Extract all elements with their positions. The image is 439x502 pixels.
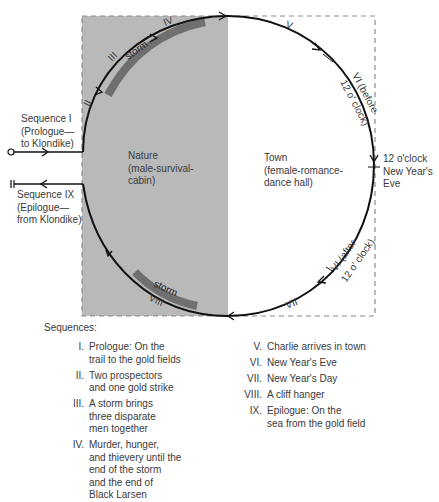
sequence-number: VIII. [224,389,267,402]
sequence-text: Prologue: On the trail to the gold field… [89,341,181,366]
sequence-number: VI. [224,357,267,370]
sequence-text: A cliff hanger [267,389,325,402]
sequence-item: III.A storm brings three disparate men t… [44,398,181,436]
entry-sequence-label: Sequence I (Prologue— to Klondike) [21,113,74,151]
sequence-number: VII. [224,373,267,386]
sequence-list-left: I.Prologue: On the trail to the gold fie… [44,341,181,502]
exit-sequence-label: Sequence IX (Epilogue— from Klondike) [17,189,81,227]
label-v: V [284,19,294,32]
sequence-text: New Year's Eve [267,357,337,370]
sequence-item: IX.Epilogue: On the sea from the gold fi… [224,405,366,430]
sequence-number: II. [44,370,89,395]
sequence-list-right: V.Charlie arrives in town VI.New Year's … [224,341,366,434]
sequence-item: VII.New Year's Day [224,373,366,386]
sequences-heading: Sequences: [44,322,97,335]
sequence-text: Charlie arrives in town [267,341,366,354]
narrative-loop-diagram: II III storm IV V VI (before 12 o' clock… [0,0,439,330]
sequence-text: Two prospectors and one gold strike [89,370,174,395]
sequence-item: I.Prologue: On the trail to the gold fie… [44,341,181,366]
sequence-item: V.Charlie arrives in town [224,341,366,354]
exit-end-icon [11,180,14,188]
midnight-label: 12 o'clock New Year's Eve [383,153,433,191]
sequence-item: VIII.A cliff hanger [224,389,366,402]
sequence-number: IV. [44,439,89,502]
entry-start-icon [8,149,14,155]
sequence-text: A storm brings three disparate men toget… [89,398,156,436]
sequence-number: III. [44,398,89,436]
nature-region-label: Nature (male-survival- cabin) [128,150,194,188]
sequence-text: Murder, hunger, and thievery until the e… [89,439,181,502]
town-region-label: Town (female-romance- dance hall) [264,152,343,190]
sequence-item: IV.Murder, hunger, and thievery until th… [44,439,181,502]
sequence-number: IX. [224,405,267,430]
sequence-item: II.Two prospectors and one gold strike [44,370,181,395]
sequence-text: Epilogue: On the sea from the gold field [267,405,365,430]
sequence-item: VI.New Year's Eve [224,357,366,370]
sequence-number: I. [44,341,89,366]
sequence-text: New Year's Day [267,373,337,386]
sequence-number: V. [224,341,267,354]
